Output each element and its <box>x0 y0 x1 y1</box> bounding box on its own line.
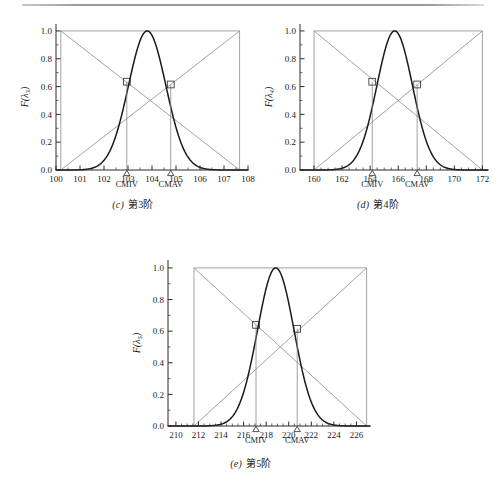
x-tick-label: 220 <box>282 430 296 440</box>
x-tick-label: 210 <box>169 430 183 440</box>
caption-e: (e)第5阶 <box>120 455 382 470</box>
x-tick-label: 104 <box>145 174 159 184</box>
y-tick-label: 0.0 <box>285 165 297 175</box>
x-tick-label: 106 <box>193 174 207 184</box>
y-tick-label: 0.8 <box>41 54 53 64</box>
y-tick-label: 0.2 <box>285 137 296 147</box>
caption-d-index: (d) <box>357 199 369 210</box>
y-tick-label: 1.0 <box>153 263 165 273</box>
y-tick-label: 0.4 <box>285 110 297 120</box>
x-tick-label: 105 <box>169 174 183 184</box>
caption-d-text: 第4阶 <box>373 199 399 210</box>
x-tick-label: 170 <box>448 174 462 184</box>
x-tick-label: 216 <box>237 430 251 440</box>
x-tick-label: 103 <box>121 174 135 184</box>
y-tick-label: 0.0 <box>41 165 53 175</box>
x-tick-label: 168 <box>420 174 434 184</box>
y-tick-label: 0.6 <box>153 326 165 336</box>
y-tick-label: 0.2 <box>41 137 52 147</box>
x-tick-label: 160 <box>307 174 321 184</box>
caption-e-index: (e) <box>230 458 242 469</box>
y-tick-label: 0.4 <box>41 110 53 120</box>
y-tick-label: 0.8 <box>285 54 297 64</box>
x-tick-label: 222 <box>305 430 319 440</box>
x-tick-label: 166 <box>391 174 405 184</box>
x-tick-label: 226 <box>350 430 364 440</box>
caption-d: (d)第4阶 <box>258 196 498 211</box>
x-tick-label: 108 <box>241 174 255 184</box>
x-tick-label: 218 <box>259 430 273 440</box>
x-tick-label: 224 <box>327 430 341 440</box>
x-tick-label: 162 <box>335 174 349 184</box>
y-tick-label: 1.0 <box>41 26 53 36</box>
x-tick-label: 172 <box>476 174 490 184</box>
panel-d: CMIVCMAV1601621641661681701720.00.20.40.… <box>258 14 498 194</box>
y-tick-label: 0.2 <box>153 390 164 400</box>
y-tick-label: 0.4 <box>153 358 165 368</box>
y-tick-label: 0.6 <box>285 82 297 92</box>
chart-d: CMIVCMAV1601621641661681701720.00.20.40.… <box>258 14 498 194</box>
chart-e: CMIVCMAV2102122142162182202222242260.00.… <box>120 248 382 453</box>
y-axis-title: F(λ₅) <box>131 332 143 354</box>
x-tick-label: 101 <box>73 174 87 184</box>
y-axis-title: F(λ₄) <box>263 86 275 108</box>
y-tick-label: 0.0 <box>153 421 165 431</box>
x-tick-label: 107 <box>217 174 231 184</box>
panel-c: CMIVCMAV1001011021031041051061071080.00.… <box>8 14 258 194</box>
caption-e-text: 第5阶 <box>246 458 272 469</box>
x-tick-label: 164 <box>363 174 377 184</box>
caption-c-text: 第3阶 <box>128 199 154 210</box>
y-axis-title: F(λ₃) <box>19 86 31 108</box>
x-tick-label: 212 <box>192 430 206 440</box>
x-tick-label: 102 <box>97 174 111 184</box>
caption-c-index: (c) <box>112 199 124 210</box>
y-tick-label: 0.6 <box>41 82 53 92</box>
chart-c: CMIVCMAV1001011021031041051061071080.00.… <box>8 14 258 194</box>
y-tick-label: 1.0 <box>285 26 297 36</box>
figure-container: CMIVCMAV1001011021031041051061071080.00.… <box>0 0 501 497</box>
y-tick-label: 0.8 <box>153 295 165 305</box>
x-tick-label: 214 <box>214 430 228 440</box>
panel-e: CMIVCMAV2102122142162182202222242260.00.… <box>120 248 382 453</box>
caption-c: (c)第3阶 <box>8 196 258 211</box>
